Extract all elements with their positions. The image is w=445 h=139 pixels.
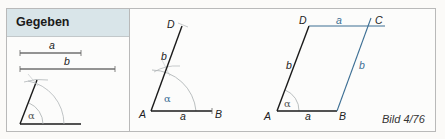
step2-vertex-c: C bbox=[375, 14, 383, 26]
step2-side-dc-label: a bbox=[336, 14, 342, 26]
construction-diagram: a b α bbox=[0, 0, 445, 139]
step1-angle-label: α bbox=[164, 93, 171, 104]
given-segment-b: b bbox=[20, 55, 115, 72]
step2-vertex-b: B bbox=[339, 110, 346, 122]
step1-arc-d bbox=[178, 23, 188, 27]
step2-vertex-a: A bbox=[263, 110, 271, 122]
step2-side-bc-label: b bbox=[359, 59, 365, 71]
step2-angle-label: α bbox=[284, 98, 291, 109]
given-segment-a-label: a bbox=[49, 39, 55, 51]
given-segment-b-label: b bbox=[64, 55, 70, 67]
step2-side-ad-label: b bbox=[286, 59, 292, 71]
step2-panel: A B C D a b a b α bbox=[263, 14, 385, 122]
step1-side-b-label: b bbox=[161, 50, 167, 62]
step2-vertex-d: D bbox=[299, 14, 307, 26]
step1-vertex-d: D bbox=[167, 18, 175, 30]
step1-panel: A B D a b α bbox=[138, 18, 222, 122]
given-angle-label: α bbox=[28, 110, 35, 121]
step1-vertex-b: B bbox=[215, 108, 222, 120]
given-angle: α bbox=[20, 74, 81, 124]
step2-side-ab-label: a bbox=[305, 110, 311, 122]
step1-side-a-label: a bbox=[180, 110, 186, 122]
given-panel: a b α bbox=[20, 39, 115, 124]
step2-side-ad bbox=[277, 26, 309, 111]
step1-vertex-a: A bbox=[138, 108, 146, 120]
given-segment-a: a bbox=[20, 39, 81, 56]
step2-side-bc bbox=[337, 18, 371, 111]
figure-caption: Bild 4/76 bbox=[382, 113, 425, 125]
